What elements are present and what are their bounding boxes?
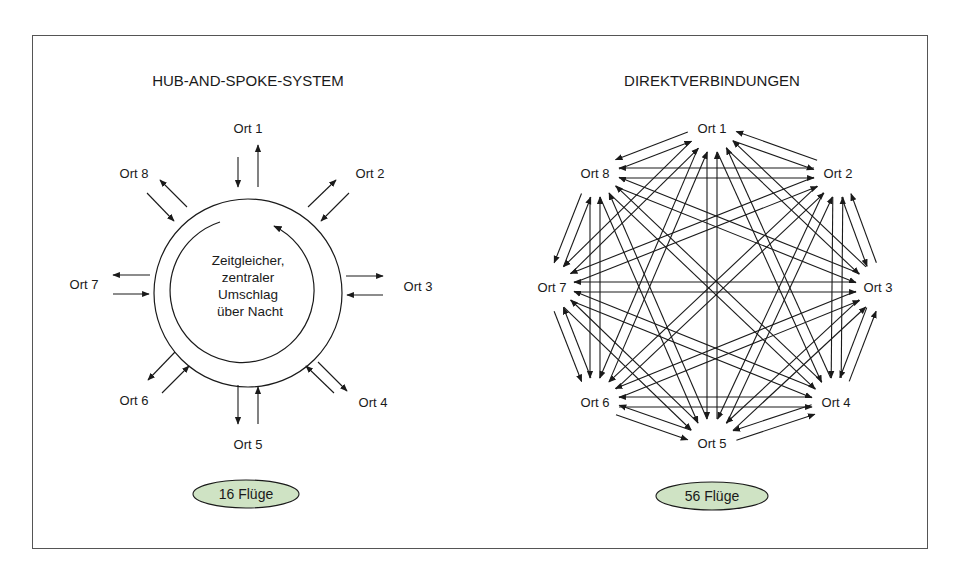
hub-node-ort-2: Ort 2 — [356, 166, 385, 181]
direct-node-ort-6: Ort 6 — [581, 395, 610, 410]
flights-badge-direct: 56 Flüge — [656, 482, 768, 510]
hub-node-ort-3: Ort 3 — [404, 279, 433, 294]
direct-node-ort-5: Ort 5 — [698, 436, 727, 451]
hub-node-ort-4: Ort 4 — [359, 395, 388, 410]
hub-center-text: Zeitgleicher, zentraler Umschlag über Na… — [212, 253, 289, 319]
hub-node-ort-7: Ort 7 — [70, 277, 99, 292]
flights-badge-hub: 16 Flüge — [193, 480, 299, 508]
hub-node-ort-6: Ort 6 — [120, 393, 149, 408]
direct-connections-title: DIREKTVERBINDUNGEN — [624, 72, 800, 89]
hub-node-ort-1: Ort 1 — [234, 121, 263, 136]
direct-connections-panel: DIREKTVERBINDUNGEN Ort 1 Ort 2 Ort 3 Ort… — [538, 72, 893, 510]
direct-node-ort-1: Ort 1 — [698, 121, 727, 136]
direct-node-ort-4: Ort 4 — [822, 395, 851, 410]
diagram-canvas: HUB-AND-SPOKE-SYSTEM Zeitgleicher, zentr… — [0, 0, 958, 579]
direct-node-ort-7: Ort 7 — [538, 280, 567, 295]
hub-and-spoke-panel: HUB-AND-SPOKE-SYSTEM Zeitgleicher, zentr… — [70, 72, 433, 508]
direct-node-ort-8: Ort 8 — [581, 166, 610, 181]
direct-node-ort-2: Ort 2 — [824, 166, 853, 181]
direct-node-ort-3: Ort 3 — [864, 280, 893, 295]
svg-text:16 Flüge: 16 Flüge — [219, 486, 274, 502]
svg-text:56 Flüge: 56 Flüge — [685, 488, 740, 504]
hub-and-spoke-title: HUB-AND-SPOKE-SYSTEM — [152, 72, 344, 89]
hub-node-ort-5: Ort 5 — [234, 437, 263, 452]
hub-node-ort-8: Ort 8 — [120, 166, 149, 181]
